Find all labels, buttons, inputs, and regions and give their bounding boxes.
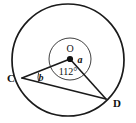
geometry-canvas: O C D a 112° b [0, 0, 136, 123]
label-point-d: D [113, 97, 121, 109]
label-angle-a: a [78, 54, 83, 65]
circle-geometry-figure: O C D a 112° b [0, 0, 136, 123]
label-point-c: C [7, 72, 15, 84]
label-angle-b: b [39, 72, 44, 83]
label-angle-112: 112° [59, 66, 78, 77]
centre-point-dot [67, 56, 73, 62]
label-point-o: O [66, 43, 73, 54]
